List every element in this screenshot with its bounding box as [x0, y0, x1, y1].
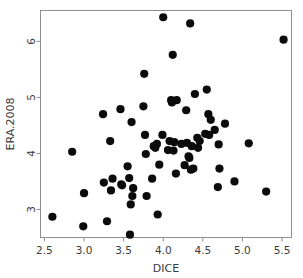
data-point	[169, 147, 177, 155]
data-point	[215, 164, 223, 172]
data-point	[191, 90, 199, 98]
x-tick-label: 4.5	[194, 244, 211, 256]
data-point	[155, 161, 163, 169]
data-point	[173, 96, 181, 104]
data-point	[172, 170, 180, 178]
data-point	[203, 85, 211, 93]
data-point	[153, 140, 161, 148]
data-point	[262, 187, 270, 195]
data-point	[127, 118, 135, 126]
x-tick-label: 2.5	[36, 244, 53, 256]
data-point	[211, 126, 219, 134]
data-point	[106, 137, 114, 145]
x-tick-label: 5.5	[274, 244, 291, 256]
data-point	[141, 131, 149, 139]
y-tick-label: 6	[25, 38, 37, 45]
y-tick-label: 4	[25, 150, 37, 157]
data-point	[100, 178, 108, 186]
data-point	[169, 51, 177, 59]
data-point	[118, 181, 126, 189]
data-point	[124, 162, 132, 170]
data-point	[127, 200, 135, 208]
data-point	[189, 164, 197, 172]
data-point	[142, 150, 150, 158]
data-point	[140, 70, 148, 78]
data-point	[48, 213, 56, 221]
data-point	[143, 192, 151, 200]
data-point	[215, 140, 223, 148]
data-point	[126, 231, 134, 239]
data-point	[170, 138, 178, 146]
data-point	[245, 139, 253, 147]
data-point	[108, 175, 116, 183]
data-point	[103, 217, 111, 225]
data-point	[196, 137, 204, 145]
data-point	[207, 116, 215, 124]
x-tick-label: 4.0	[155, 244, 172, 256]
data-point	[107, 186, 115, 194]
data-point	[116, 105, 124, 113]
data-point	[230, 177, 238, 185]
scatter-plot-figure: 2.53.03.54.04.55.05.5 3456 DICE ERA.2008	[0, 0, 303, 278]
data-point	[99, 110, 107, 118]
data-point	[128, 192, 136, 200]
scatter-plot-canvas: 2.53.03.54.04.55.05.5 3456 DICE ERA.2008	[0, 0, 303, 278]
y-tick-label: 5	[25, 94, 37, 101]
data-point	[185, 154, 193, 162]
data-point	[214, 183, 222, 191]
data-point	[68, 148, 76, 156]
data-point	[129, 184, 137, 192]
x-axis-title: DICE	[153, 262, 179, 275]
data-point	[154, 210, 162, 218]
data-point	[279, 36, 287, 44]
data-point	[186, 19, 194, 27]
data-point	[182, 106, 190, 114]
data-point	[125, 174, 133, 182]
x-tick-label: 3.0	[76, 244, 93, 256]
data-point	[158, 131, 166, 139]
data-point	[80, 189, 88, 197]
data-point	[139, 102, 147, 110]
data-point	[148, 175, 156, 183]
data-point	[79, 222, 87, 230]
data-point	[221, 120, 229, 128]
y-tick-label: 3	[25, 206, 37, 213]
x-tick-label: 5.0	[234, 244, 251, 256]
figure-background	[0, 0, 303, 278]
data-point	[159, 13, 167, 21]
y-axis-title: ERA.2008	[4, 98, 17, 151]
x-tick-label: 3.5	[115, 244, 132, 256]
